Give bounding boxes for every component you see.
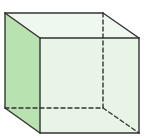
front-face [40, 38, 139, 133]
cube-diagram [0, 0, 146, 140]
cube-svg [0, 0, 146, 140]
